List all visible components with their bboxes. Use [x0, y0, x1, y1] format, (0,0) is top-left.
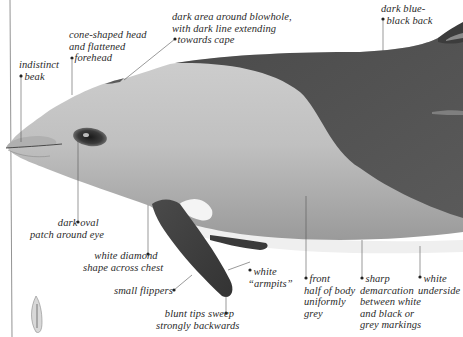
label-blunt-tips: blunt tips sweep strongly backwards — [156, 308, 240, 331]
label-dark-blue-black-back: dark blue- black back — [381, 3, 433, 26]
label-white-diamond: white diamond shape across chest — [83, 250, 163, 273]
dorsal-fin-shape — [438, 22, 463, 44]
label-small-flippers: small flippers — [114, 285, 178, 297]
label-white-armpits: white “armpits” — [248, 266, 293, 289]
label-sharp-demarcation: sharp demarcation between white and blac… — [360, 273, 421, 331]
label-white-underside: white underside — [418, 273, 460, 296]
porpoise-diagram: indistinct beak cone-shaped head and fla… — [0, 0, 463, 337]
label-dark-area-blowhole: dark area around blowhole, with dark lin… — [172, 11, 292, 46]
label-front-half-grey: front half of body uniformly grey — [304, 273, 355, 319]
frame-line — [10, 0, 12, 337]
label-cone-shaped-head: cone-shaped head and flattened forehead — [69, 29, 147, 64]
label-indistinct-beak: indistinct beak — [19, 59, 59, 82]
label-dark-oval-patch: dark oval patch around eye — [30, 217, 104, 240]
